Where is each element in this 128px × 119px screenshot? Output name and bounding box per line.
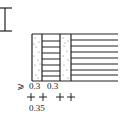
stipple-column-2: [63, 38, 69, 79]
hatch-band-1: [42, 41, 60, 76]
hatch-band-2: [71, 40, 118, 75]
stipple-column-1: [34, 38, 41, 79]
dimension-label-1: 0.3: [29, 82, 40, 91]
dimension-label-total: 0.35: [29, 104, 45, 113]
dimension-ticks: [27, 93, 75, 101]
dimension-label-2: 0.3: [47, 82, 58, 91]
wall-section-diagram: [0, 0, 128, 119]
min-symbol: ⩾: [17, 82, 25, 91]
i-beam-icon: [0, 8, 12, 31]
